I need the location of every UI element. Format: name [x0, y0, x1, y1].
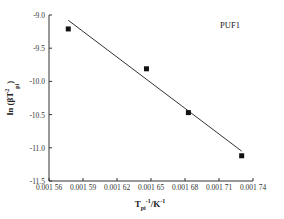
x-tick-label: 0.001 68 [172, 183, 199, 192]
data-point [239, 153, 244, 158]
x-tick-label: 0.001 62 [104, 183, 131, 192]
y-axis-label: ln (βT2pi) [4, 81, 20, 116]
fit-line [68, 20, 241, 151]
data-point [66, 26, 71, 31]
data-point [186, 110, 191, 115]
x-tick-label: 0.001 65 [138, 183, 165, 192]
x-tick-label: 0.001 59 [70, 183, 97, 192]
x-axis-label: Tpi-1/K-1 [135, 198, 166, 211]
y-tick-label: -11.0 [30, 144, 46, 153]
y-tick-label: -9.0 [33, 11, 45, 20]
y-tick-label: -10.0 [29, 77, 45, 86]
y-tick-label: -10.5 [29, 111, 45, 120]
x-tick-label: 0.001 74 [240, 183, 267, 192]
x-tick-label: 0.001 71 [206, 183, 233, 192]
chart: -9.0-9.5-10.0-10.5-11.0-11.50.001 560.00… [0, 0, 284, 219]
x-tick-label: 0.001 56 [36, 183, 63, 192]
y-tick-label: -9.5 [33, 44, 45, 53]
series-annotation: PUF1 [220, 20, 240, 30]
data-point [144, 66, 149, 71]
